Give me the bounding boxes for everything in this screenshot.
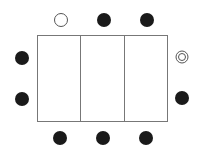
seat-bottom-2-filled-circle-icon [96, 131, 110, 145]
table [38, 36, 168, 122]
seat-top-2-filled-circle-icon [97, 13, 111, 27]
seat-top-3-filled-circle-icon [140, 13, 154, 27]
seats [15, 13, 189, 145]
seating-diagram [0, 0, 203, 156]
seat-bottom-1-filled-circle-icon [53, 131, 67, 145]
seat-left-2-filled-circle-icon [15, 92, 29, 106]
seat-top-1-open-circle-icon [55, 14, 68, 27]
seat-right-2-filled-circle-icon [175, 91, 189, 105]
seat-bottom-3-filled-circle-icon [139, 131, 153, 145]
seat-left-1-filled-circle-icon [15, 51, 29, 65]
table-outline [38, 36, 168, 122]
seat-right-1-double-circle-icon [176, 51, 188, 63]
